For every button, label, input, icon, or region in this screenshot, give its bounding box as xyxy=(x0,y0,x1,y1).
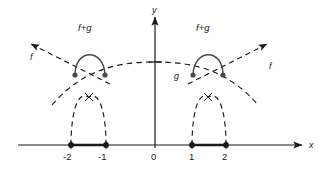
x-tick-label-2: 2 xyxy=(222,152,227,162)
point-marker-sum-left-end xyxy=(102,72,107,77)
curve-sum-left-path xyxy=(75,55,105,75)
curve-f-right-ray xyxy=(188,44,267,84)
point-marker-sum-right-start xyxy=(190,72,195,77)
curve-f-left-branch-a xyxy=(71,96,88,145)
curve-label-sum-left: f+g xyxy=(78,23,91,33)
curve-label-f-left: f xyxy=(30,53,33,62)
curve-f-right xyxy=(188,44,267,145)
x-tick-label-1: 1 xyxy=(189,152,194,162)
x-axis-label: x xyxy=(309,141,314,150)
point-marker-2 xyxy=(223,142,229,148)
point-marker-minus-1 xyxy=(103,142,109,148)
curve-f-left xyxy=(31,44,110,145)
point-marker-sum-right-end xyxy=(220,72,225,77)
curve-sum-right-path xyxy=(193,55,223,75)
curve-f-right-branch-a xyxy=(209,96,226,145)
curve-label-sum-right: f+g xyxy=(196,23,209,33)
curve-sum-left xyxy=(75,55,105,75)
curve-label-g: g xyxy=(174,72,179,81)
cusp-mark-left xyxy=(85,93,93,101)
y-axis-label: y xyxy=(152,6,157,15)
x-tick-label-minus-2: -2 xyxy=(63,152,71,162)
origin-label: 0 xyxy=(151,152,156,162)
cusp-marks xyxy=(85,93,212,101)
curve-f-left-ray xyxy=(31,44,110,84)
point-marker-minus-2 xyxy=(68,142,74,148)
curve-sum-right xyxy=(193,55,223,75)
point-marker-sum-left-start xyxy=(72,72,77,77)
figure-container: x y 0 -2 -1 1 2 f+g f+g f f g xyxy=(0,0,322,174)
cusp-mark-right xyxy=(204,93,212,101)
point-marker-1 xyxy=(189,142,195,148)
x-tick-label-minus-1: -1 xyxy=(98,152,106,162)
curve-f-right-branch-b xyxy=(192,96,208,145)
graph-canvas xyxy=(0,0,322,174)
axis-lines xyxy=(18,17,302,148)
curve-label-f-right: f xyxy=(269,62,272,71)
curve-f-left-branch-b xyxy=(89,96,106,145)
point-markers xyxy=(68,72,229,148)
